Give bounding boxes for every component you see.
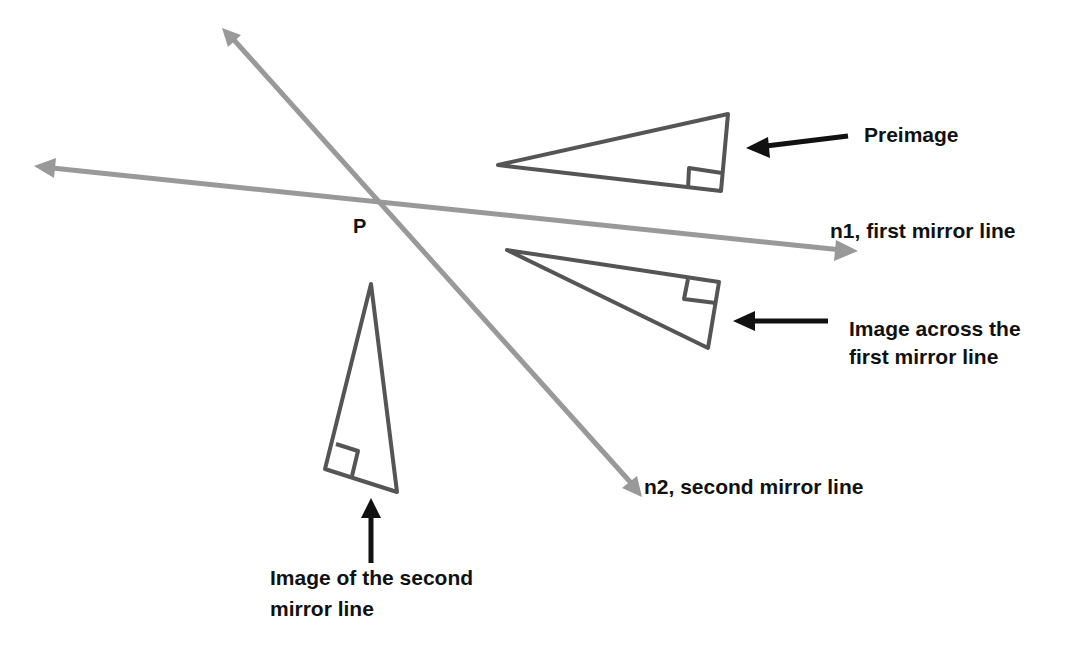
- image2-triangle: [325, 284, 397, 492]
- pointer-arrow-image2: [361, 498, 381, 563]
- pointer-arrow-image1: [733, 311, 828, 331]
- n1-label: n1, first mirror line: [830, 218, 1016, 243]
- diagram-canvas: P Preimage n1, first mirror line Image a…: [0, 0, 1092, 647]
- n1-left-arrowhead-icon: [34, 158, 56, 178]
- right-angle-marker-icon: [336, 444, 358, 476]
- pointer-arrow-preimage: [746, 136, 848, 158]
- image1-label-line2: first mirror line: [849, 344, 998, 369]
- n2-label: n2, second mirror line: [644, 474, 863, 499]
- image1-triangle: [507, 250, 719, 348]
- image2-label-line2: mirror line: [270, 596, 374, 621]
- image1-label-line1: Image across the: [849, 316, 1021, 341]
- arrowhead-icon: [733, 311, 755, 331]
- mirror-line-n1: [34, 158, 858, 261]
- n1-right-arrowhead-icon: [834, 240, 858, 261]
- arrowhead-icon: [361, 498, 381, 518]
- image2-label-line1: Image of the second: [270, 565, 473, 590]
- arrowhead-icon: [746, 137, 770, 158]
- preimage-label: Preimage: [864, 122, 959, 147]
- point-p-label: P: [353, 214, 366, 239]
- preimage-triangle: [498, 114, 728, 191]
